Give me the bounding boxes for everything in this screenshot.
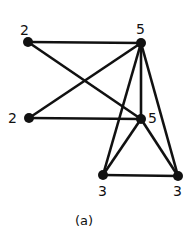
node-E [98,170,108,180]
node-label-A: 2 [20,23,29,37]
edge-B-E [103,43,141,175]
edge-C-D [29,118,141,119]
edge-A-B [28,42,141,43]
node-D [136,114,146,124]
figure-caption: (a) [75,213,93,228]
node-label-D: 5 [148,111,157,125]
node-B [136,38,146,48]
node-label-C: 2 [8,111,17,125]
edge-B-F [141,43,178,176]
graph-diagram [0,0,195,247]
node-label-E: 3 [98,184,107,198]
node-A [23,37,33,47]
node-C [24,113,34,123]
edge-D-E [103,119,141,175]
edge-E-F [103,175,178,176]
node-label-B: 5 [136,22,145,36]
node-label-F: 3 [173,184,182,198]
edge-D-F [141,119,178,176]
node-F [173,171,183,181]
